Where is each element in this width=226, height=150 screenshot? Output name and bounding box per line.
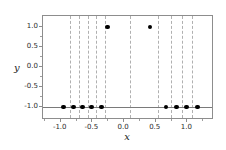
x-minor-tick-mark xyxy=(202,119,203,121)
x-tick-label: -1.0 xyxy=(53,124,67,131)
vertical-guide-line xyxy=(88,16,89,118)
y-tick-label: 1.0 xyxy=(18,23,38,30)
vertical-guide-line xyxy=(192,16,193,118)
x-minor-tick-mark xyxy=(171,119,172,121)
x-axis-label: x xyxy=(124,131,130,142)
scatter-point xyxy=(164,105,169,110)
x-tick-mark xyxy=(155,119,156,122)
x-minor-tick-mark xyxy=(107,119,108,121)
x-tick-label: -0.5 xyxy=(85,124,99,131)
y-tick-label: -1.0 xyxy=(18,103,38,110)
x-tick-label: 1.0 xyxy=(181,124,192,131)
vertical-guide-line xyxy=(182,16,183,118)
scatter-point xyxy=(105,25,110,30)
y-tick-label: -0.5 xyxy=(18,83,38,90)
plot-area xyxy=(42,15,213,119)
figure: y x -1.0-0.50.00.51.0 -1.0-0.50.00.51.0 xyxy=(0,0,226,150)
x-tick-mark xyxy=(60,119,61,122)
x-tick-label: 0.0 xyxy=(117,124,128,131)
scatter-point xyxy=(174,105,179,110)
x-minor-tick-mark xyxy=(76,119,77,121)
x-minor-tick-mark xyxy=(139,119,140,121)
scatter-point xyxy=(99,105,104,110)
scatter-point xyxy=(148,25,153,30)
vertical-guide-line xyxy=(105,16,106,118)
vertical-guide-line xyxy=(70,16,71,118)
scatter-point xyxy=(61,105,66,110)
vertical-guide-line xyxy=(171,16,172,118)
vertical-guide-line xyxy=(130,16,131,118)
y-tick-label: 0.5 xyxy=(18,43,38,50)
scatter-point xyxy=(184,105,189,110)
x-tick-label: 0.5 xyxy=(149,124,160,131)
scatter-point xyxy=(71,105,76,110)
x-minor-tick-mark xyxy=(44,119,45,121)
x-tick-mark xyxy=(91,119,92,122)
x-tick-mark xyxy=(123,119,124,122)
x-tick-mark xyxy=(186,119,187,122)
vertical-guide-line xyxy=(79,16,80,118)
scatter-point xyxy=(89,105,94,110)
vertical-guide-line xyxy=(158,16,159,118)
y-tick-label: 0.0 xyxy=(18,63,38,70)
scatter-point xyxy=(195,105,200,110)
scatter-point xyxy=(80,105,85,110)
vertical-guide-line xyxy=(96,16,97,118)
